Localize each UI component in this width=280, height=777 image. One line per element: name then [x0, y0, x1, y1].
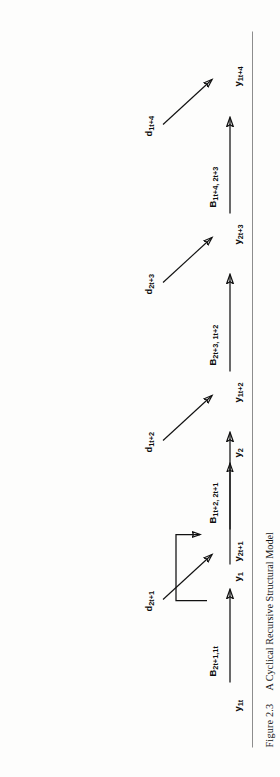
figure-page: y1 y2 y1t y2t+1 y1t+2 y2t+3 y1t+4 B2t+1,…: [0, 0, 280, 777]
scanned-sheet: y1 y2 y1t y2t+1 y1t+2 y2t+3 y1t+4 B2t+1,…: [0, 0, 280, 777]
node-y1t: y1t: [232, 699, 245, 711]
node-y2t3: y2t+3: [232, 224, 245, 244]
coefficient-b3: B1t+4, 2t+3: [207, 166, 220, 207]
figure-caption: Figure 2.3A Cyclical Recursive Structura…: [264, 532, 275, 747]
legend-label-y1: y1: [232, 572, 245, 581]
arrow-d0: [163, 554, 212, 599]
coefficient-b1: B1t+2, 2t+1: [207, 482, 220, 523]
node-y2t1: y2t+1: [232, 541, 245, 561]
disturbance-d2: d2t+3: [143, 273, 156, 294]
coefficient-b2: B2t+3, 1t+2: [207, 324, 220, 365]
disturbance-d3: d1t+4: [143, 115, 156, 136]
figure-caption-number: Figure 2.3: [264, 703, 275, 747]
node-y1t4: y1t+4: [232, 66, 245, 86]
arrow-d1: [163, 395, 212, 440]
legend-feedback-bracket: [176, 534, 207, 600]
node-y1t2: y1t+2: [232, 382, 245, 402]
disturbance-d1: d1t+2: [143, 431, 156, 452]
legend-label-y2: y2: [232, 448, 245, 457]
arrow-d3: [163, 79, 212, 124]
coefficient-b0: B2t+1,1t: [207, 646, 220, 676]
figure-caption-title: A Cyclical Recursive Structural Model: [264, 532, 275, 690]
disturbance-d0: d2t+1: [143, 590, 156, 611]
arrow-d2: [163, 237, 212, 282]
